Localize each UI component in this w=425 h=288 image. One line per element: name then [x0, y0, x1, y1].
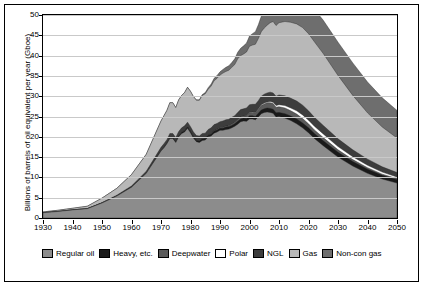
x-tick-mark	[161, 220, 162, 224]
y-tick-label: 30	[19, 91, 39, 100]
y-tick-label: 40	[19, 51, 39, 60]
legend-label: Gas	[303, 249, 318, 258]
y-tick-label: 35	[19, 71, 39, 80]
y-tick-mark	[39, 198, 43, 199]
chart-legend: Regular oilHeavy, etc.DeepwaterPolarNGLG…	[42, 246, 414, 260]
legend-swatch	[215, 249, 226, 258]
y-tick-mark	[39, 76, 43, 77]
legend-swatch	[289, 249, 300, 258]
y-tick-mark	[39, 15, 43, 16]
y-tick-mark	[39, 35, 43, 36]
y-tick-mark	[39, 137, 43, 138]
legend-item: Regular oil	[42, 249, 94, 258]
x-tick-mark	[397, 220, 398, 224]
legend-swatch	[322, 249, 333, 258]
legend-swatch	[253, 249, 264, 258]
x-tick-mark	[43, 220, 44, 224]
gridline	[43, 177, 397, 178]
legend-item: Non-con gas	[322, 249, 381, 258]
legend-label: Polar	[229, 249, 248, 258]
legend-swatch	[158, 249, 169, 258]
y-tick-label: 10	[19, 172, 39, 181]
gridline	[43, 157, 397, 158]
x-tick-mark	[279, 220, 280, 224]
legend-item: Gas	[289, 249, 318, 258]
legend-label: Deepwater	[172, 249, 211, 258]
y-tick-label: 50	[19, 10, 39, 19]
y-tick-label: 20	[19, 132, 39, 141]
x-tick-mark	[368, 220, 369, 224]
plot-area: 0510152025303540455019301940195019601970…	[42, 14, 398, 219]
x-tick-mark	[102, 220, 103, 224]
legend-swatch	[42, 249, 53, 258]
y-tick-label: 45	[19, 30, 39, 39]
y-tick-mark	[39, 177, 43, 178]
gridline	[43, 96, 397, 97]
y-tick-mark	[39, 157, 43, 158]
legend-label: Non-con gas	[336, 249, 381, 258]
legend-swatch	[99, 249, 110, 258]
gridline	[43, 56, 397, 57]
legend-item: Heavy, etc.	[99, 249, 152, 258]
legend-item: NGL	[253, 249, 283, 258]
x-tick-mark	[220, 220, 221, 224]
legend-label: Regular oil	[56, 249, 94, 258]
y-tick-mark	[39, 117, 43, 118]
y-tick-mark	[39, 218, 43, 219]
gridline	[43, 117, 397, 118]
legend-item: Deepwater	[158, 249, 211, 258]
gridline	[43, 35, 397, 36]
legend-item: Polar	[215, 249, 248, 258]
gridline	[43, 198, 397, 199]
x-tick-mark	[250, 220, 251, 224]
legend-label: Heavy, etc.	[113, 249, 152, 258]
x-tick-mark	[309, 220, 310, 224]
gridline	[43, 137, 397, 138]
y-tick-label: 25	[19, 112, 39, 121]
chart-figure: Billions of barrels of oil equivalent pe…	[0, 0, 425, 288]
gridline	[43, 15, 397, 16]
y-tick-mark	[39, 96, 43, 97]
y-tick-mark	[39, 56, 43, 57]
x-tick-mark	[191, 220, 192, 224]
x-tick-mark	[338, 220, 339, 224]
x-tick-mark	[73, 220, 74, 224]
gridline	[43, 76, 397, 77]
y-tick-label: 5	[19, 193, 39, 202]
legend-label: NGL	[267, 249, 283, 258]
x-tick-mark	[132, 220, 133, 224]
y-tick-label: 15	[19, 152, 39, 161]
